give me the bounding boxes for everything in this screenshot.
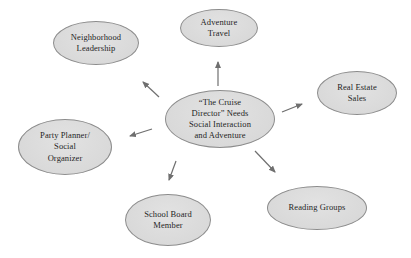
node-label-real-estate-sales: Real Estate Sales (337, 82, 377, 104)
node-reading-groups: Reading Groups (267, 186, 367, 230)
node-label-reading-groups: Reading Groups (289, 202, 346, 213)
node-label-party-planner-social-organizer: Party Planner/ Social Organizer (40, 130, 90, 163)
node-adventure-travel: Adventure Travel (180, 9, 258, 47)
diagram-canvas: Neighborhood Leadership Adventure Travel… (0, 0, 411, 258)
arrow-to-real-estate-sales (282, 104, 302, 112)
node-label-school-board-member: School Board Member (144, 209, 192, 231)
node-real-estate-sales: Real Estate Sales (317, 71, 397, 115)
node-label-adventure-travel: Adventure Travel (201, 17, 238, 39)
node-neighborhood-leadership: Neighborhood Leadership (53, 21, 139, 65)
node-label-cruise-director: “The Cruise Director” Needs Social Inter… (189, 97, 251, 141)
node-school-board-member: School Board Member (125, 194, 211, 246)
arrow-to-party-planner (130, 129, 152, 136)
node-cruise-director-center: “The Cruise Director” Needs Social Inter… (165, 90, 275, 148)
arrow-to-reading-groups (255, 151, 275, 172)
arrow-to-neighborhood-leadership (143, 82, 159, 97)
node-party-planner-social-organizer: Party Planner/ Social Organizer (18, 119, 112, 175)
arrow-to-school-board-member (169, 161, 176, 180)
node-label-neighborhood-leadership: Neighborhood Leadership (71, 32, 121, 54)
